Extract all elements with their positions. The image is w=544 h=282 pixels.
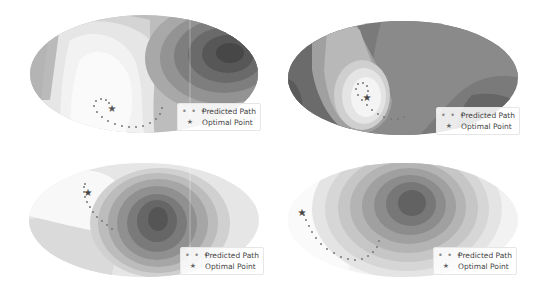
panel-top-left: ★ • • •Predicted Path ★Optimal Point: [0, 0, 272, 141]
legend-bottom-right: • • •Predicted Path ★Optimal Point: [433, 247, 517, 275]
star-icon: ★: [441, 121, 457, 132]
optimal-point-star-top-left: ★: [108, 103, 117, 114]
star-icon: ★: [438, 261, 454, 272]
star-icon: ★: [182, 117, 198, 128]
star-icon: ★: [185, 261, 201, 272]
legend-label-path: Predicted Path: [205, 250, 259, 261]
panel-bottom-right: ★ • • •Predicted Path ★Optimal Point: [272, 141, 544, 282]
dotted-line-icon: • • •: [182, 106, 198, 117]
legend-label-point: Optimal Point: [458, 261, 509, 272]
legend-top-left: • • •Predicted Path ★Optimal Point: [177, 103, 261, 131]
legend-label-path: Predicted Path: [461, 110, 515, 121]
legend-label-point: Optimal Point: [202, 117, 253, 128]
legend-top-right: • • •Predicted Path ★Optimal Point: [436, 107, 520, 135]
dotted-line-icon: • • •: [438, 250, 454, 261]
dotted-line-icon: • • •: [185, 250, 201, 261]
optimal-point-star-top-right: ★: [363, 92, 372, 103]
optimal-point-star-bottom-left: ★: [84, 187, 93, 198]
dotted-line-icon: • • •: [441, 110, 457, 121]
legend-label-point: Optimal Point: [205, 261, 256, 272]
panel-bottom-left: ★ • • •Predicted Path ★Optimal Point: [0, 141, 272, 282]
legend-label-path: Predicted Path: [202, 106, 256, 117]
legend-bottom-left: • • •Predicted Path ★Optimal Point: [180, 247, 264, 275]
legend-label-path: Predicted Path: [458, 250, 512, 261]
optimal-point-star-bottom-right: ★: [298, 207, 307, 218]
legend-label-point: Optimal Point: [461, 121, 512, 132]
panel-top-right: ★ • • •Predicted Path ★Optimal Point: [272, 0, 544, 141]
